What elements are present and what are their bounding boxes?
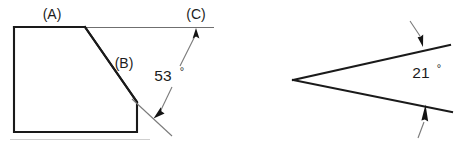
dimension-21-degree-symbol: ° — [437, 62, 442, 74]
leader-line-upper-53 — [180, 34, 196, 66]
block-outline — [14, 27, 137, 132]
dimension-53-value: 53 — [154, 67, 172, 84]
dimension-53-degrees: 53 ° — [154, 65, 184, 84]
leader-line-lower-53 — [160, 87, 172, 112]
left-figure-chamfered-block: (A) (B) (C) 53 ° — [14, 6, 214, 136]
label-a: (A) — [43, 6, 62, 22]
leader-line-upper-21 — [410, 21, 420, 36]
dimension-21-degrees: 21 ° — [412, 62, 441, 81]
label-b: (B) — [115, 55, 134, 71]
technical-drawing-canvas: (A) (B) (C) 53 ° 21 — [0, 0, 462, 144]
dimension-53-degree-symbol: ° — [180, 65, 185, 77]
right-figure-wedge-angle: 21 ° — [293, 21, 452, 138]
dimension-21-value: 21 — [412, 64, 430, 81]
arrow-head-down-to-chamfer — [154, 107, 165, 118]
leader-line-lower-21 — [418, 122, 424, 138]
label-c: (C) — [186, 6, 205, 22]
wedge-lower-ray — [293, 80, 452, 112]
arrow-head-up-to-line-c — [193, 28, 200, 39]
arrow-head-down-to-upper-ray — [418, 34, 424, 47]
drawing-surface: (A) (B) (C) 53 ° 21 — [0, 0, 462, 144]
